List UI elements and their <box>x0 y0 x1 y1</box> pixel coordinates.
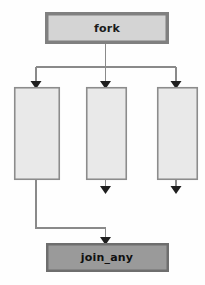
node-branch-3[interactable] <box>158 88 198 180</box>
node-fork[interactable] <box>47 14 168 43</box>
diagram-canvas: fork join_any <box>0 0 205 285</box>
arrowhead-branch-3-out <box>171 186 182 194</box>
node-branch-1[interactable] <box>15 88 60 180</box>
node-join-any[interactable] <box>47 244 168 271</box>
diagram-graphics <box>0 0 205 285</box>
node-branch-2[interactable] <box>87 88 127 180</box>
edge-branch-1-to-join <box>36 180 106 238</box>
arrowhead-branch-2-out <box>100 186 111 194</box>
